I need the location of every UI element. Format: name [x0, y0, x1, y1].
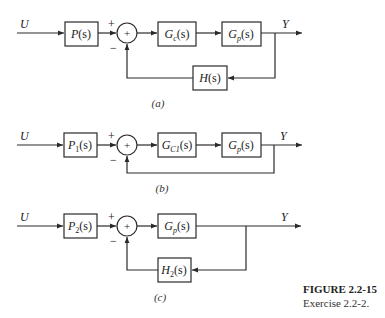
- svg-text:Gc(s): Gc(s): [165, 27, 190, 43]
- svg-text:H(s): H(s): [198, 71, 220, 85]
- svg-text:Gp(s): Gp(s): [228, 27, 253, 43]
- output-label-y: Y: [280, 129, 288, 143]
- block-gp: Gp(s): [222, 22, 261, 46]
- input-label-u: U: [20, 17, 30, 31]
- plus-sign: +: [108, 17, 115, 31]
- output-label-y: Y: [281, 210, 289, 224]
- summing-junction: +: [117, 23, 137, 43]
- summing-junction: +: [117, 135, 137, 155]
- block-h2: H2(s): [158, 258, 191, 282]
- h2-to-sum-arrow: [127, 237, 158, 270]
- block-gc1: GC1(s): [158, 133, 196, 157]
- h-to-sum-arrow: [127, 44, 193, 78]
- block-p2: P2(s): [64, 214, 97, 238]
- plus-sign: +: [108, 210, 115, 224]
- figure-title: FIGURE 2.2-15: [303, 283, 377, 295]
- block-gc: Gc(s): [158, 22, 196, 46]
- caption-c: (c): [154, 291, 167, 304]
- svg-text:P1(s): P1(s): [67, 138, 92, 154]
- diagram-c: U P2(s) + − + Gp(s) Y H2(s) (c): [17, 210, 301, 304]
- feedback-to-h2-arrow: [192, 226, 246, 270]
- svg-text:+: +: [124, 220, 130, 232]
- svg-text:Gp(s): Gp(s): [228, 138, 253, 154]
- svg-text:P(s): P(s): [70, 27, 91, 41]
- minus-sign: −: [110, 41, 117, 55]
- plus-sign: +: [108, 129, 115, 143]
- svg-text:+: +: [124, 139, 130, 151]
- svg-text:P2(s): P2(s): [67, 219, 92, 235]
- input-label-u: U: [20, 210, 30, 224]
- diagram-a: U P(s) + − + Gc(s) Gp(s) Y H(s) (a: [17, 17, 302, 110]
- summing-junction: +: [117, 216, 137, 236]
- diagram-b: U P1(s) + − + GC1(s) Gp(s) Y (b): [17, 129, 302, 195]
- output-label-y: Y: [282, 17, 290, 31]
- minus-sign: −: [110, 234, 117, 248]
- block-gp: Gp(s): [158, 214, 196, 238]
- figure-subtitle: Exercise 2.2-2.: [303, 297, 369, 309]
- caption-a: (a): [152, 97, 165, 110]
- svg-text:+: +: [124, 27, 130, 39]
- minus-sign: −: [110, 153, 117, 167]
- block-gp: Gp(s): [222, 133, 261, 157]
- block-p1: P1(s): [64, 133, 97, 157]
- block-h: H(s): [193, 66, 227, 90]
- svg-text:Gp(s): Gp(s): [164, 219, 189, 235]
- input-label-u: U: [20, 129, 30, 143]
- block-diagrams-canvas: U P(s) + − + Gc(s) Gp(s) Y H(s) (a: [0, 0, 385, 318]
- svg-text:H2(s): H2(s): [160, 263, 186, 279]
- block-p: P(s): [65, 22, 98, 46]
- caption-b: (b): [156, 182, 169, 195]
